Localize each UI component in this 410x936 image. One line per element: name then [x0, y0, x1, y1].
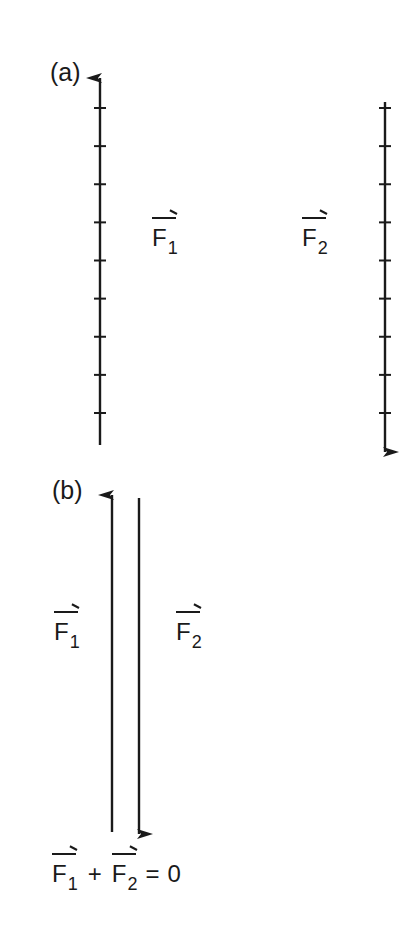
f1-subscript: 1	[70, 632, 80, 652]
eq-term1-symbol: F	[52, 862, 67, 886]
f2-subscript: 2	[192, 632, 202, 652]
f1-symbol: F	[152, 226, 167, 250]
eq-equals: =	[145, 860, 159, 887]
f1-symbol: F	[54, 620, 69, 644]
eq-term2-subscript: 2	[127, 874, 137, 894]
vector-f2-arrow-a	[379, 102, 391, 452]
eq-term2-symbol: F	[112, 862, 127, 886]
vector-f1-arrow-a	[94, 78, 106, 445]
equilibrium-equation: F1+F2=0	[52, 862, 181, 893]
eq-plus: +	[88, 860, 102, 887]
f1-label-a: F1	[152, 226, 178, 257]
f2-subscript: 2	[318, 238, 328, 258]
eq-result: 0	[167, 860, 180, 887]
f1-label-b: F1	[54, 620, 80, 651]
f2-symbol: F	[302, 226, 317, 250]
f1-subscript: 1	[168, 238, 178, 258]
part-a-label: (a)	[50, 60, 81, 85]
f2-symbol: F	[176, 620, 191, 644]
f2-label-b: F2	[176, 620, 202, 651]
f2-label-a: F2	[302, 226, 328, 257]
part-b-label: (b)	[52, 478, 83, 503]
eq-term1-subscript: 1	[68, 874, 78, 894]
force-diagram	[0, 0, 410, 936]
